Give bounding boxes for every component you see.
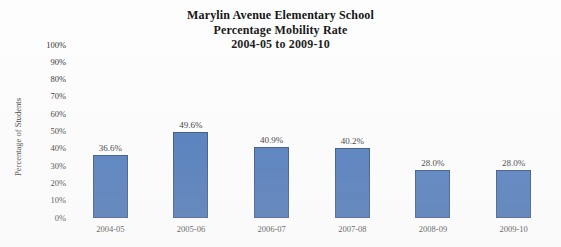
plot-area: 36.6% 49.6% 40.9% 40.2% 28.0% 28.0% [70, 45, 554, 218]
bar-slot: 40.9% [231, 45, 312, 218]
y-axis-tick: 70% [22, 92, 66, 101]
bar-value-label: 28.0% [398, 158, 468, 168]
bar-value-label: 49.6% [156, 120, 226, 130]
y-axis-tick-labels: 100% 90% 80% 70% 60% 50% 40% 30% 20% 10%… [22, 0, 66, 247]
y-axis-tick: 30% [22, 162, 66, 171]
x-axis-tick: 2006-07 [231, 224, 312, 235]
bar [254, 147, 289, 218]
bar-slot: 28.0% [393, 45, 474, 218]
chart-title-line-1: Marylin Avenue Elementary School [0, 8, 561, 23]
x-axis-tick: 2004-05 [70, 224, 151, 235]
x-axis-tick: 2005-06 [151, 224, 232, 235]
bar-slot: 36.6% [70, 45, 151, 218]
y-axis-tick: 40% [22, 144, 66, 153]
bar [173, 132, 208, 218]
bar-slot: 40.2% [312, 45, 393, 218]
y-axis-tick: 50% [22, 127, 66, 136]
x-axis-tick: 2007-08 [312, 224, 393, 235]
bar [93, 155, 128, 218]
bar [496, 170, 531, 218]
x-axis-tick-labels: 2004-05 2005-06 2006-07 2007-08 2008-09 … [70, 224, 554, 240]
bar-value-label: 36.6% [75, 143, 145, 153]
bar-value-label: 40.2% [317, 136, 387, 146]
y-axis-tick: 20% [22, 179, 66, 188]
y-axis-tick: 10% [22, 196, 66, 205]
bar-slot: 49.6% [151, 45, 232, 218]
bar-value-label: 40.9% [237, 135, 307, 145]
x-axis-tick: 2009-10 [473, 224, 554, 235]
mobility-rate-bar-chart: Marylin Avenue Elementary School Percent… [0, 0, 561, 247]
y-axis-tick: 100% [22, 41, 66, 50]
chart-title-line-2: Percentage Mobility Rate [0, 23, 561, 38]
x-axis-tick: 2008-09 [393, 224, 474, 235]
bar [415, 170, 450, 218]
bar [335, 148, 370, 218]
y-axis-tick: 0% [22, 214, 66, 223]
y-axis-tick: 90% [22, 58, 66, 67]
bar-slot: 28.0% [473, 45, 554, 218]
y-axis-tick: 80% [22, 75, 66, 84]
y-axis-tick: 60% [22, 110, 66, 119]
bar-value-label: 28.0% [479, 158, 549, 168]
